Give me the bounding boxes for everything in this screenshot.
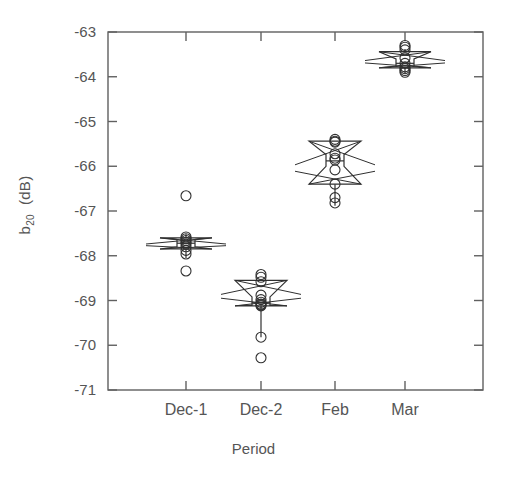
y-axis-label-subscript: 20	[25, 214, 36, 226]
boxplot-figure: -63-64-65-66-67-68-69-70-71Dec-1Dec-2Feb…	[0, 0, 507, 485]
y-axis-tick-label: -67	[74, 202, 96, 219]
box-notched	[235, 280, 287, 306]
plot-frame	[108, 32, 483, 390]
y-axis-tick-label: -69	[74, 292, 96, 309]
y-axis-tick-label: -64	[74, 68, 96, 85]
y-axis-label-base: b	[16, 226, 33, 235]
data-point	[330, 165, 340, 175]
x-axis-tick-label: Dec-2	[240, 401, 283, 418]
wing-lower-right	[235, 298, 301, 306]
y-axis-tick-label: -71	[74, 381, 96, 398]
x-axis-tick-label: Feb	[321, 401, 349, 418]
y-axis-tick-label: -66	[74, 157, 96, 174]
wing-upper-right	[235, 280, 301, 294]
boxplot-group-mar	[365, 40, 445, 77]
data-point	[181, 191, 191, 201]
y-axis-tick-label: -70	[74, 336, 96, 353]
y-axis-label-unit: (dB)	[16, 176, 33, 206]
chart-root: -63-64-65-66-67-68-69-70-71Dec-1Dec-2Feb…	[0, 0, 507, 485]
y-axis-label: b20 (dB)	[16, 145, 36, 265]
y-axis-tick-label: -68	[74, 247, 96, 264]
boxplot-group-dec-1	[146, 191, 226, 276]
data-point	[330, 137, 340, 147]
boxplot-group-feb	[295, 134, 375, 208]
x-axis-tick-label: Mar	[391, 401, 419, 418]
wing-upper-left	[221, 280, 287, 294]
x-axis-label: Period	[0, 440, 507, 457]
y-axis-label-wrap: b20 (dB)	[0, 0, 50, 485]
data-point	[181, 266, 191, 276]
data-point	[256, 353, 266, 363]
boxplot-group-dec-2	[221, 270, 301, 363]
wing-lower-left	[221, 298, 287, 306]
x-axis-tick-label: Dec-1	[165, 401, 208, 418]
y-axis-tick-label: -63	[74, 23, 96, 40]
y-axis-tick-label: -65	[74, 113, 96, 130]
